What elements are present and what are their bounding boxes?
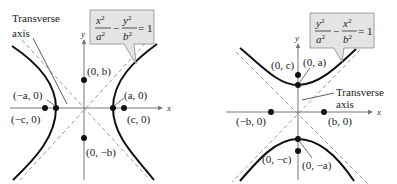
leader-a: [115, 98, 124, 105]
transverse-axis-label-line1: Transverse: [336, 86, 384, 98]
point-0-b: [81, 77, 87, 83]
label-0-neg-a: (0, −a): [302, 159, 332, 172]
point-0-a: [295, 82, 301, 88]
point-a-0: [110, 105, 116, 111]
horizontal-hyperbola-figure: x y Transverse axis (0, b) (−a, 0) (a, 0…: [10, 10, 171, 180]
point-0-c: [295, 72, 301, 78]
point-neg-c-0: [42, 105, 48, 111]
label-c-0: (c, 0): [127, 113, 151, 126]
transverse-axis-label-line2: axis: [336, 98, 354, 110]
x-axis-label: x: [166, 103, 171, 113]
label-neg-c-0: (−c, 0): [11, 113, 41, 126]
leader-neg-a: [47, 100, 54, 105]
leader-0-neg-a: [300, 142, 312, 158]
transverse-axis-label-line1: Transverse: [12, 12, 60, 24]
hyperbola-lower-branch: [240, 139, 354, 181]
asymptote-line: [22, 40, 150, 180]
eq-minus: −: [113, 22, 119, 34]
label-neg-b-0: (−b, 0): [236, 115, 266, 128]
label-0-a: (0, a): [303, 56, 327, 69]
label-0-b: (0, b): [87, 65, 111, 78]
label-0-neg-b: (0, −b): [86, 146, 116, 159]
y-axis-label: y: [80, 29, 85, 39]
point-0-neg-a: [295, 136, 301, 142]
eq-minus: −: [333, 25, 339, 37]
transverse-axis-pointer: [302, 93, 334, 100]
point-c-0: [121, 105, 127, 111]
vertical-hyperbola-figure: x y Transverse axis (0, c) (0, a) (−b, 0…: [226, 13, 384, 184]
point-neg-b-0: [268, 109, 274, 115]
eq-rhs: = 1: [138, 22, 152, 34]
x-axis-label: x: [376, 107, 381, 117]
label-a-0: (a, 0): [124, 89, 148, 102]
equation-callout: x2 a2 − y2 b2 = 1: [90, 10, 154, 64]
label-neg-a-0: (−a, 0): [13, 89, 43, 102]
point-0-neg-c: [295, 148, 301, 154]
label-0-c: (0, c): [271, 59, 295, 72]
equation-callout: y2 a2 − x2 b2 = 1: [310, 13, 374, 62]
label-0-neg-c: (0, −c): [262, 153, 292, 166]
point-0-neg-b: [81, 135, 87, 141]
point-b-0: [321, 109, 327, 115]
leader-0-a: [300, 68, 310, 82]
label-b-0: (b, 0): [328, 115, 352, 128]
y-axis-label: y: [294, 33, 299, 43]
point-neg-a-0: [53, 105, 59, 111]
transverse-axis-label-line2: axis: [12, 27, 30, 39]
eq-rhs: = 1: [358, 25, 372, 37]
hyperbola-right-branch: [113, 44, 157, 180]
